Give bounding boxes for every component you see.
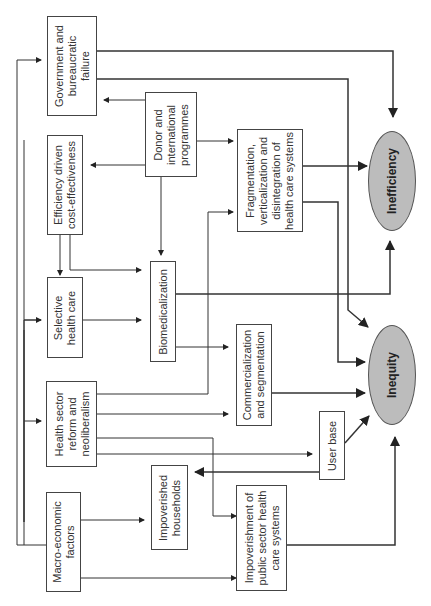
node-biomedicalization: Biomedicalization [150,261,176,362]
node-user-base: User base [319,411,345,480]
node-impoverishment-public: Impoverishment of public sector health c… [236,485,287,591]
node-efficiency-driven-label: Efficiency driven cost-effectiveness [52,141,78,229]
node-impoverished-households-label: Impoverished households [157,474,183,540]
node-efficiency-driven: Efficiency driven cost-effectiveness [47,135,83,235]
node-biomedicalization-label: Biomedicalization [157,269,170,355]
outcome-inefficiency: Inefficiency [368,131,416,231]
node-macro-economic: Macro-economic factors [46,492,81,592]
node-fragmentation: Fragmentation, verticalization and disin… [237,129,303,232]
outcome-inefficiency-label: Inefficiency [386,148,399,214]
node-government-failure-label: Government and bureaucratic failure [53,25,92,107]
node-commercialization-label: Commercialization and segmentation [241,330,267,420]
node-health-sector-reform: Health sector reform and neoliberalism [46,381,97,467]
causal-diagram: Government and bureaucratic failure Dono… [0,0,431,606]
node-selective-health-care-label: Selective health care [52,290,78,344]
node-government-failure: Government and bureaucratic failure [47,16,97,116]
node-health-sector-reform-label: Health sector reform and neoliberalism [52,392,91,457]
node-donor-programmes-label: Donor and international programmes [152,104,191,166]
outcome-inequity: Inequity [368,325,416,425]
node-fragmentation-label: Fragmentation, verticalization and disin… [244,132,296,230]
node-macro-economic-label: Macro-economic factors [51,501,77,582]
node-commercialization: Commercialization and segmentation [236,324,272,426]
node-impoverishment-public-label: Impoverishment of public sector health c… [242,491,281,586]
node-donor-programmes: Donor and international programmes [145,92,197,177]
node-impoverished-households: Impoverished households [151,465,188,550]
outcome-inequity-label: Inequity [386,352,399,398]
node-user-base-label: User base [326,420,339,470]
node-selective-health-care: Selective health care [47,277,83,358]
